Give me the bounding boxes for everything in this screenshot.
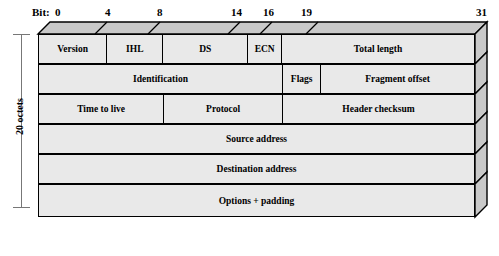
- field-flags[interactable]: Flags: [283, 65, 321, 93]
- field-version[interactable]: Version: [39, 35, 107, 63]
- row-front-face-0: Version IHL DS ECN Total length: [38, 34, 475, 64]
- row-front-face-2: Time to live Protocol Header checksum: [38, 94, 475, 124]
- row-front-face-1: Identification Flags Fragment offset: [38, 64, 475, 94]
- row-front-face-4: Destination address: [38, 154, 475, 184]
- row-side-face-3: [475, 112, 487, 154]
- field-source-address[interactable]: Source address: [39, 125, 474, 153]
- row-side-face-4: [475, 142, 487, 184]
- field-header-checksum[interactable]: Header checksum: [283, 95, 474, 123]
- field-ds[interactable]: DS: [163, 35, 248, 63]
- stack-top-face: [38, 22, 487, 34]
- top-face-divider-ecn: [260, 22, 272, 34]
- field-total-length[interactable]: Total length: [282, 35, 474, 63]
- field-fragment-offset[interactable]: Fragment offset: [321, 65, 474, 93]
- ipv4-header-stack: Version IHL DS ECN Total length Identifi…: [0, 0, 499, 256]
- row-side-face-1: [475, 52, 487, 94]
- row-side-face-0: [475, 22, 487, 64]
- field-ecn[interactable]: ECN: [248, 35, 282, 63]
- field-protocol[interactable]: Protocol: [164, 95, 283, 123]
- field-destination-address[interactable]: Destination address: [39, 155, 474, 183]
- row-front-face-5: Options + padding: [38, 184, 475, 217]
- field-time-to-live[interactable]: Time to live: [39, 95, 164, 123]
- row-front-face-3: Source address: [38, 124, 475, 154]
- field-ihl[interactable]: IHL: [107, 35, 163, 63]
- row-side-face-5: [475, 172, 487, 217]
- row-side-face-2: [475, 82, 487, 124]
- top-face-divider-ihl: [148, 22, 160, 34]
- top-face-divider-version: [95, 22, 107, 34]
- top-face-divider-19: [306, 22, 318, 34]
- field-identification[interactable]: Identification: [39, 65, 283, 93]
- field-options-padding[interactable]: Options + padding: [39, 185, 474, 216]
- top-face-divider-ds: [228, 22, 240, 34]
